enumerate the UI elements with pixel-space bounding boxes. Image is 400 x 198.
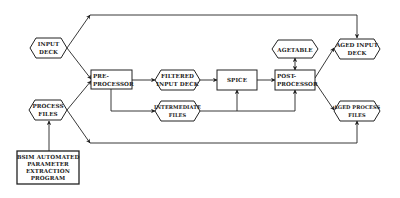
edge-input-deck-to-top-bus: [67, 15, 90, 48]
agetable-label: AGETABLE: [276, 47, 312, 53]
input-deck-label-line2: DECK: [39, 49, 59, 55]
process-files-label-line1: PROCESS: [32, 103, 63, 109]
node-aged-process-files: AGED PROCESS FILES: [333, 101, 381, 121]
node-bsim-automated-parameter-extraction-program: BSIM AUTOMATED PARAMETER EXTRACTION PROG…: [17, 151, 80, 184]
post-processor-label-line2: PROCESSOR: [277, 81, 318, 87]
node-agetable: AGETABLE: [272, 40, 318, 58]
post-processor-label-line1: POST-: [277, 73, 297, 79]
intermediate-files-label-line2: FILES: [169, 112, 187, 118]
node-post-processor: POST- PROCESSOR: [275, 70, 318, 90]
flow-diagram: INPUT DECK PROCESS FILES BSIM AUTOMATED …: [0, 0, 400, 198]
node-process-files: PROCESS FILES: [29, 100, 67, 120]
aged-process-files-label-line1: AGED PROCESS: [333, 104, 381, 110]
pre-processor-label-line1: PRE-: [93, 73, 110, 79]
node-input-deck: INPUT DECK: [30, 38, 67, 58]
edge-bottom-bus-to-aged-process-files: [90, 121, 357, 143]
edge-process-files-to-pre-processor: [67, 81, 91, 110]
bsim-label-line2: PARAMETER: [27, 161, 69, 167]
intermediate-files-label-line1: INTERMEDIATE: [154, 104, 201, 110]
node-filtered-input-deck: FILTERED INPUT DECK: [155, 70, 200, 90]
input-deck-label-line1: INPUT: [38, 41, 60, 47]
node-spice: SPICE: [217, 70, 257, 90]
edge-process-files-to-bottom-bus: [67, 110, 90, 143]
aged-input-deck-label-line2: DECK: [348, 50, 368, 56]
edge-intermediate-files-to-post-processor: [237, 90, 295, 111]
process-files-label-line2: FILES: [38, 111, 57, 117]
bsim-label-line1: BSIM AUTOMATED: [17, 154, 80, 160]
edge-post-processor-to-aged-input-deck: [315, 48, 334, 78]
bsim-label-line4: PROGRAM: [31, 175, 65, 181]
pre-processor-label-line2: PROCESSOR: [93, 81, 134, 87]
node-pre-processor: PRE- PROCESSOR: [91, 70, 134, 89]
filtered-input-deck-label-line1: FILTERED: [161, 73, 194, 79]
edge-post-processor-to-aged-process-files: [315, 82, 334, 110]
edge-pre-processor-to-intermediate-files: [111, 89, 155, 111]
filtered-input-deck-label-line2: INPUT DECK: [156, 81, 199, 87]
edge-intermediate-files-to-spice: [200, 90, 237, 111]
edge-top-bus-to-aged-input-deck: [90, 15, 357, 38]
aged-process-files-label-line2: FILES: [348, 112, 366, 118]
edge-input-deck-to-pre-processor: [67, 48, 91, 79]
node-intermediate-files: INTERMEDIATE FILES: [154, 101, 201, 121]
spice-label: SPICE: [227, 77, 247, 83]
node-aged-input-deck: AGED INPUT DECK: [334, 39, 380, 59]
aged-input-deck-label-line1: AGED INPUT: [335, 42, 379, 48]
bsim-label-line3: EXTRACTION: [26, 168, 70, 174]
